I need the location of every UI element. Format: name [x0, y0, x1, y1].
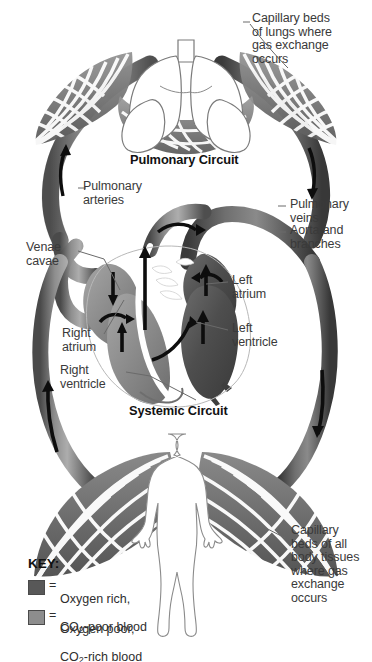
label-left-atrium: Left atrium [232, 274, 302, 301]
circulatory-system-diagram: Capillary beds of lungs where gas exchan… [0, 0, 372, 662]
label-pulmonary-veins: Pulmonary veins [290, 198, 370, 225]
key-text-oxygen-poor: Oxygen poor, CO2-rich blood [60, 608, 190, 662]
label-aorta-and-branches: Aorta and branches [290, 224, 370, 251]
key-line2-oxygen-poor: CO2-rich blood [60, 650, 142, 662]
heading-pulmonary-circuit: Pulmonary Circuit [130, 152, 239, 167]
label-right-atrium: Right atrium [62, 327, 124, 354]
label-venae-cavae: Venae cavae [26, 241, 86, 268]
label-capillary-beds-lungs: Capillary beds of lungs where gas exchan… [252, 12, 370, 66]
key-title: KEY: [28, 556, 59, 571]
key-line1-oxygen-poor: Oxygen poor, [60, 622, 134, 636]
key-equals-oxygen-rich: = [49, 578, 56, 592]
label-left-ventricle: Left ventricle [232, 322, 302, 349]
left-ventricle-chamber [181, 285, 238, 399]
key-line1-oxygen-rich: Oxygen rich, [60, 592, 130, 606]
label-pulmonary-arteries: Pulmonary arteries [83, 180, 173, 207]
heading-systemic-circuit: Systemic Circuit [129, 403, 228, 418]
label-right-ventricle: Right ventricle [60, 364, 130, 391]
key-equals-oxygen-poor: = [49, 608, 56, 622]
key-swatch-oxygen-rich [28, 580, 45, 595]
label-capillary-beds-body: Capillary beds of all body tissues where… [291, 524, 372, 606]
key-swatch-oxygen-poor [28, 610, 45, 625]
